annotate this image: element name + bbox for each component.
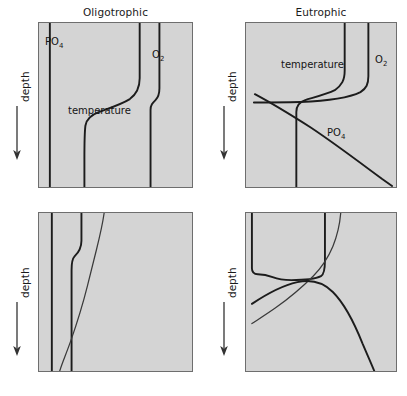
curve-no3 <box>72 213 82 371</box>
curve-label-po4-top-right: PO4 <box>327 128 345 141</box>
curve-label-o2-top-right: O2 <box>375 55 387 68</box>
curve-label-po4-top-left: PO4 <box>45 37 63 50</box>
curve-no3 <box>252 213 325 280</box>
curve-productivity <box>252 213 341 324</box>
depth-axis-bottom-left: depth <box>8 256 26 361</box>
po4-label-sub: 4 <box>59 42 63 50</box>
po4-label-sub: 4 <box>341 133 345 141</box>
curve-label-temperature-top-right: temperature <box>281 60 344 70</box>
curve-nh4 <box>252 281 374 371</box>
plot-area-eutrophic-physical <box>245 22 397 188</box>
depth-axis-label: depth <box>226 71 238 102</box>
curve-label-o2-top-left: O2 <box>152 50 164 63</box>
o2-label-sub: 2 <box>160 55 164 63</box>
curve-o2 <box>151 23 160 187</box>
o2-label-text: O <box>152 49 160 60</box>
panel-eutrophic-nutrients: depth NO3 productivity NH4 quanti <box>203 198 407 396</box>
po4-label-text: PO <box>45 36 59 47</box>
panel-oligotrophic-nutrients: depth NH4 productivity NO3 quanti <box>0 198 204 396</box>
depth-axis-label: depth <box>19 71 31 102</box>
depth-axis-top-left: depth <box>8 60 26 165</box>
curve-temperature <box>296 23 344 187</box>
panel-title-eutrophic: Eutrophic <box>245 6 397 18</box>
curve-label-temperature-top-left: temperature <box>68 106 131 116</box>
depth-axis-label: depth <box>226 267 238 298</box>
o2-label-text: O <box>375 54 383 65</box>
panel-eutrophic-physical: Eutrophic depth temperature O2 PO4 <box>203 0 407 198</box>
plot-area-eutrophic-nutrients <box>245 212 397 372</box>
panel-oligotrophic-physical: Oligotrophic depth PO4 O2 te <box>0 0 204 198</box>
depth-axis-top-right: depth <box>215 60 233 165</box>
o2-label-sub: 2 <box>383 60 387 68</box>
plot-area-oligotrophic-nutrients <box>38 212 193 372</box>
po4-label-text: PO <box>327 127 341 138</box>
depth-axis-bottom-right: depth <box>215 256 233 361</box>
panel-title-oligotrophic: Oligotrophic <box>38 6 193 18</box>
depth-axis-label: depth <box>19 267 31 298</box>
curve-po4 <box>255 94 392 186</box>
figure-lake-depth-profiles: Oligotrophic depth PO4 O2 te <box>0 0 407 396</box>
